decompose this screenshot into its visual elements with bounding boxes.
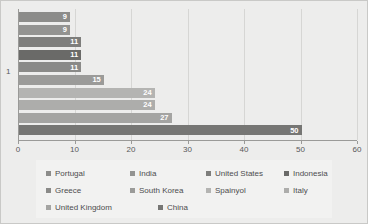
bar-indonesia[interactable]: 11 xyxy=(19,50,81,60)
bar-series: 991111111524242750 xyxy=(19,12,357,140)
x-tick-mark xyxy=(75,141,76,144)
legend-swatch-icon xyxy=(130,171,135,176)
bar-india[interactable]: 9 xyxy=(19,25,70,35)
x-tick-mark xyxy=(131,141,132,144)
legend-row: United KingdomChina xyxy=(46,199,332,216)
bar-value-label: 27 xyxy=(160,114,168,122)
bar-united-states[interactable]: 11 xyxy=(19,37,81,47)
bar-united-kingdom[interactable]: 27 xyxy=(19,113,172,123)
x-tick-label: 50 xyxy=(296,145,305,154)
legend-item-spainyol[interactable]: Spainyol xyxy=(206,187,246,195)
legend-swatch-icon xyxy=(206,188,211,193)
y-axis-line xyxy=(18,9,19,140)
legend-item-south-korea[interactable]: South Korea xyxy=(130,187,183,195)
gridline xyxy=(357,9,358,140)
legend-label: Indonesia xyxy=(293,170,328,178)
legend-label: Italy xyxy=(293,187,308,195)
bar-row: 50 xyxy=(19,125,357,135)
x-tick-label: 60 xyxy=(353,145,362,154)
bar-value-label: 24 xyxy=(143,89,151,97)
x-tick-label: 30 xyxy=(183,145,192,154)
bar-row: 24 xyxy=(19,88,357,98)
legend-item-portugal[interactable]: Portugal xyxy=(46,170,85,178)
bar-greece[interactable]: 11 xyxy=(19,62,81,72)
bar-value-label: 9 xyxy=(63,26,67,34)
legend-swatch-icon xyxy=(130,188,135,193)
legend-label: Greece xyxy=(55,187,81,195)
bar-portugal[interactable]: 9 xyxy=(19,12,70,22)
bar-row: 11 xyxy=(19,62,357,72)
legend-swatch-icon xyxy=(46,205,51,210)
legend-item-china[interactable]: China xyxy=(158,204,188,212)
x-tick-label: 0 xyxy=(16,145,20,154)
legend-item-indonesia[interactable]: Indonesia xyxy=(284,170,328,178)
legend-row: GreeceSouth KoreaSpainyolItaly xyxy=(46,182,332,199)
bar-chart: 991111111524242750 0102030405060 1 Portu… xyxy=(0,0,368,224)
bar-value-label: 11 xyxy=(70,51,78,59)
bar-row: 24 xyxy=(19,100,357,110)
legend-label: India xyxy=(139,170,156,178)
legend-item-india[interactable]: India xyxy=(130,170,156,178)
legend-label: Portugal xyxy=(55,170,85,178)
legend-item-united-kingdom[interactable]: United Kingdom xyxy=(46,204,112,212)
x-tick-mark xyxy=(357,141,358,144)
bar-row: 11 xyxy=(19,50,357,60)
x-axis-tick-labels: 0102030405060 xyxy=(18,141,357,155)
legend-label: United Kingdom xyxy=(55,204,112,212)
legend-swatch-icon xyxy=(206,171,211,176)
legend-swatch-icon xyxy=(284,188,289,193)
bar-china[interactable]: 50 xyxy=(19,125,302,135)
x-tick-label: 10 xyxy=(70,145,79,154)
bar-value-label: 9 xyxy=(63,13,67,21)
bar-row: 11 xyxy=(19,37,357,47)
legend-label: South Korea xyxy=(139,187,183,195)
x-tick-mark xyxy=(301,141,302,144)
plot-area: 991111111524242750 xyxy=(18,9,357,140)
x-tick-mark xyxy=(244,141,245,144)
bar-south-korea[interactable]: 15 xyxy=(19,75,104,85)
bar-row: 27 xyxy=(19,113,357,123)
legend-label: China xyxy=(167,204,188,212)
bar-value-label: 24 xyxy=(143,101,151,109)
bar-value-label: 11 xyxy=(70,64,78,72)
legend-label: Spainyol xyxy=(215,187,246,195)
x-tick-mark xyxy=(188,141,189,144)
legend-item-greece[interactable]: Greece xyxy=(46,187,81,195)
legend-item-united-states[interactable]: United States xyxy=(206,170,263,178)
bar-value-label: 50 xyxy=(290,127,298,135)
legend-swatch-icon xyxy=(158,205,163,210)
bar-spainyol[interactable]: 24 xyxy=(19,88,155,98)
chart-legend: PortugalIndiaUnited StatesIndonesiaGreec… xyxy=(36,160,332,218)
legend-swatch-icon xyxy=(46,188,51,193)
legend-row: PortugalIndiaUnited StatesIndonesia xyxy=(46,165,332,182)
bar-row: 15 xyxy=(19,75,357,85)
bar-row: 9 xyxy=(19,25,357,35)
bar-value-label: 15 xyxy=(92,76,100,84)
bar-italy[interactable]: 24 xyxy=(19,100,155,110)
legend-label: United States xyxy=(215,170,263,178)
bar-value-label: 11 xyxy=(70,38,78,46)
x-tick-label: 40 xyxy=(240,145,249,154)
y-axis-category-label: 1 xyxy=(6,67,10,76)
x-tick-label: 20 xyxy=(127,145,136,154)
x-tick-mark xyxy=(18,141,19,144)
legend-item-italy[interactable]: Italy xyxy=(284,187,308,195)
legend-swatch-icon xyxy=(284,171,289,176)
bar-row: 9 xyxy=(19,12,357,22)
legend-swatch-icon xyxy=(46,171,51,176)
